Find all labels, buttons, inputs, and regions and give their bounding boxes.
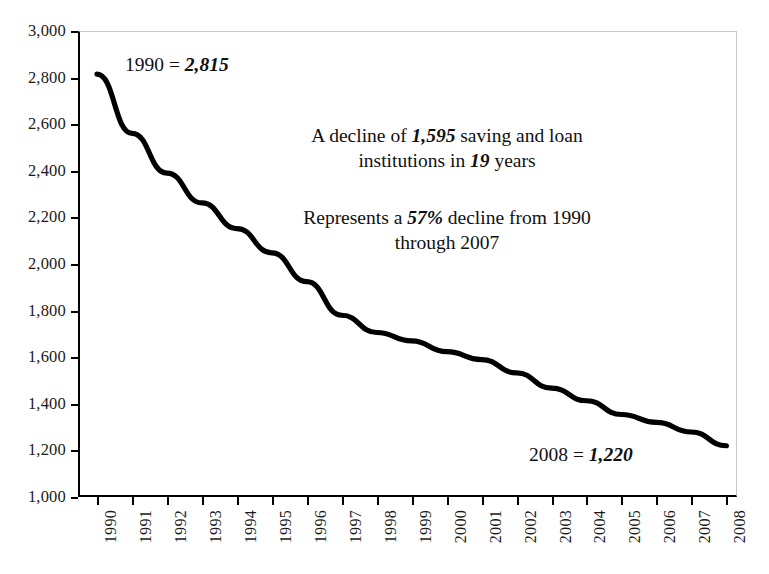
x-tick-mark xyxy=(237,497,239,505)
annotation-start-prefix: 1990 = xyxy=(125,54,185,75)
annotation-end-value: 2008 = 1,220 xyxy=(529,442,633,467)
x-tick-label: 1997 xyxy=(348,510,364,543)
annotation-end-prefix: 2008 = xyxy=(529,444,589,465)
y-tick-mark xyxy=(71,264,78,266)
x-tick-label: 2001 xyxy=(488,510,504,543)
annotation-percent-text-a: Represents a xyxy=(303,207,407,228)
y-tick-mark xyxy=(71,31,78,33)
x-tick-label: 2004 xyxy=(592,510,608,543)
y-tick-label: 1,000 xyxy=(28,489,66,506)
x-tick-mark xyxy=(482,497,484,505)
y-tick-mark xyxy=(71,450,78,452)
y-tick-label: 1,200 xyxy=(28,442,66,459)
y-tick-mark xyxy=(71,171,78,173)
x-tick-label: 1991 xyxy=(138,510,154,543)
annotation-decline-text-b: saving and loan xyxy=(455,125,582,146)
x-tick-mark xyxy=(272,497,274,505)
annotation-decline-text-d: years xyxy=(490,150,536,171)
x-tick-mark xyxy=(377,497,379,505)
annotation-end-number: 1,220 xyxy=(589,444,633,465)
x-axis: 1990199119921993199419951996199719981999… xyxy=(78,497,739,574)
x-tick-label: 1992 xyxy=(173,510,189,543)
x-tick-mark xyxy=(586,497,588,505)
x-tick-label: 1998 xyxy=(383,510,399,543)
series-line-chart xyxy=(78,31,737,497)
x-tick-label: 2005 xyxy=(627,510,643,543)
x-tick-label: 1994 xyxy=(243,510,259,543)
y-tick-mark xyxy=(71,124,78,126)
annotation-decline: A decline of 1,595 saving and loan insti… xyxy=(267,123,627,173)
annotation-percent-text-b: decline from 1990 xyxy=(443,207,591,228)
annotation-decline-line2: institutions in 19 years xyxy=(267,148,627,173)
y-tick-mark xyxy=(71,497,78,499)
x-tick-mark xyxy=(202,497,204,505)
annotation-decline-text-a: A decline of xyxy=(311,125,411,146)
y-tick-label: 1,400 xyxy=(28,396,66,413)
x-tick-mark xyxy=(621,497,623,505)
annotation-percent: Represents a 57% decline from 1990 throu… xyxy=(267,205,627,255)
y-tick-mark xyxy=(71,404,78,406)
x-tick-label: 1993 xyxy=(208,510,224,543)
y-tick-label: 1,800 xyxy=(28,302,66,319)
x-tick-mark xyxy=(342,497,344,505)
x-tick-mark xyxy=(517,497,519,505)
x-tick-mark xyxy=(412,497,414,505)
annotation-percent-line1: Represents a 57% decline from 1990 xyxy=(267,205,627,230)
x-tick-label: 2003 xyxy=(558,510,574,543)
x-tick-mark xyxy=(132,497,134,505)
x-tick-mark xyxy=(97,497,99,505)
x-tick-mark xyxy=(691,497,693,505)
x-tick-mark xyxy=(552,497,554,505)
x-tick-label: 2002 xyxy=(523,510,539,543)
annotation-decline-line1: A decline of 1,595 saving and loan xyxy=(267,123,627,148)
y-tick-label: 2,600 xyxy=(28,116,66,133)
x-tick-label: 1990 xyxy=(103,510,119,543)
chart-page: 3,0002,8002,6002,4002,2002,0001,8001,600… xyxy=(0,0,769,574)
x-tick-mark xyxy=(726,497,728,505)
y-tick-label: 1,600 xyxy=(28,349,66,366)
x-tick-label: 2000 xyxy=(453,510,469,543)
x-tick-mark xyxy=(307,497,309,505)
annotation-percent-line2: through 2007 xyxy=(267,230,627,255)
x-tick-mark xyxy=(167,497,169,505)
annotation-decline-text-c: institutions in xyxy=(358,150,470,171)
y-tick-mark xyxy=(71,78,78,80)
y-tick-mark xyxy=(71,357,78,359)
annotation-decline-years: 19 xyxy=(470,150,490,171)
y-tick-label: 2,200 xyxy=(28,209,66,226)
x-tick-label: 1999 xyxy=(418,510,434,543)
annotation-percent-number: 57% xyxy=(407,207,443,228)
annotation-start-value: 1990 = 2,815 xyxy=(125,52,229,77)
x-tick-mark xyxy=(656,497,658,505)
y-tick-mark xyxy=(71,311,78,313)
x-tick-label: 2006 xyxy=(662,510,678,543)
y-tick-mark xyxy=(71,217,78,219)
y-tick-label: 3,000 xyxy=(28,23,66,40)
x-tick-label: 2007 xyxy=(697,510,713,543)
y-tick-label: 2,000 xyxy=(28,256,66,273)
x-tick-label: 1996 xyxy=(313,510,329,543)
x-tick-mark xyxy=(447,497,449,505)
y-tick-label: 2,400 xyxy=(28,163,66,180)
annotation-decline-number: 1,595 xyxy=(412,125,456,146)
x-tick-label: 2008 xyxy=(732,510,748,543)
y-axis: 3,0002,8002,6002,4002,2002,0001,8001,600… xyxy=(0,20,78,520)
y-tick-label: 2,800 xyxy=(28,69,66,86)
annotation-start-number: 2,815 xyxy=(185,54,229,75)
x-tick-label: 1995 xyxy=(278,510,294,543)
